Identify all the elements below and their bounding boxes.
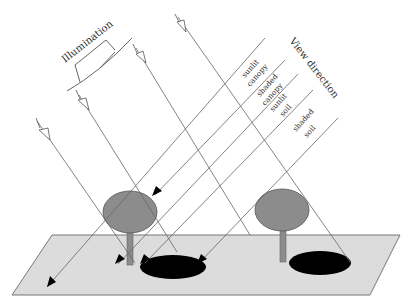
view-labels: View direction sunlit canopy shaded cano… [240,35,342,140]
left-tree-canopy [103,191,157,233]
right-tree-stem [280,229,286,262]
canopy-view-geometry-diagram: Illumination View direction sunlit canop… [0,0,412,305]
filled-arrow-icon [152,186,162,196]
open-arrow-icon [136,51,146,63]
view-direction-label: View direction [287,35,342,101]
right-tree-canopy [255,189,309,231]
open-arrow-icon [177,20,186,32]
open-arrow-icon [78,98,89,110]
left-tree-shadow [140,255,206,279]
illumination-arrow-icons [36,14,186,140]
open-arrow-icon [39,128,50,140]
right-tree-shadow [289,251,351,275]
